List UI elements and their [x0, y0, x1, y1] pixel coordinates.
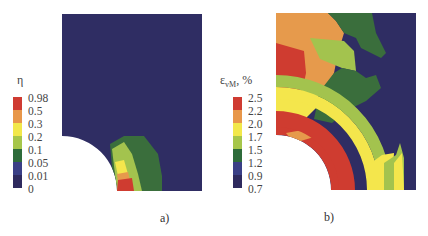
legend-a-band — [13, 123, 22, 136]
legend-a-band — [13, 136, 22, 149]
legend-a-title: η — [17, 73, 23, 88]
legend-a-label: 0.98 — [28, 92, 48, 105]
legend-a-band — [13, 149, 22, 162]
legend-a-band — [13, 97, 22, 110]
legend-b-subscript: vM — [225, 80, 236, 89]
legend-a-label: 0.3 — [28, 118, 48, 131]
legend-b-label: 2.2 — [248, 105, 262, 118]
legend-a-colorbar — [13, 97, 22, 188]
legend-b-label: 1.5 — [248, 144, 262, 157]
legend-b-band — [233, 175, 242, 188]
legend-a-label: 0.1 — [28, 144, 48, 157]
legend-b-title: εvM, % — [220, 73, 252, 89]
caption-a: a) — [160, 211, 169, 226]
legend-a-label: 0.5 — [28, 105, 48, 118]
legend-b-unit: , % — [236, 73, 252, 87]
legend-b-label: 1.7 — [248, 131, 262, 144]
legend-b-band — [233, 110, 242, 123]
legend-a-label: 0 — [28, 183, 48, 196]
legend-a-label: 0.01 — [28, 170, 48, 183]
legend-a-labels: 0.98 0.5 0.3 0.2 0.1 0.05 0.01 0 — [28, 92, 48, 196]
legend-a-band — [13, 110, 22, 123]
legend-b-band — [233, 136, 242, 149]
legend-b-band — [233, 97, 242, 110]
legend-a-label: 0.2 — [28, 131, 48, 144]
legend-a-label: 0.05 — [28, 157, 48, 170]
contour-plot-a — [62, 14, 202, 191]
legend-a-band — [13, 175, 22, 188]
legend-b-label: 0.9 — [248, 170, 262, 183]
legend-a-band — [13, 162, 22, 175]
legend-b-label: 0.7 — [248, 183, 262, 196]
legend-b-band — [233, 149, 242, 162]
caption-b: b) — [324, 210, 334, 225]
legend-b-label: 2.5 — [248, 92, 262, 105]
contour-plot-b — [276, 13, 416, 190]
legend-b-label: 2.0 — [248, 118, 262, 131]
legend-b-labels: 2.5 2.2 2.0 1.7 1.5 1.2 0.9 0.7 — [248, 92, 262, 196]
legend-b-label: 1.2 — [248, 157, 262, 170]
legend-b-band — [233, 123, 242, 136]
legend-b-colorbar — [233, 97, 242, 188]
legend-b-band — [233, 162, 242, 175]
